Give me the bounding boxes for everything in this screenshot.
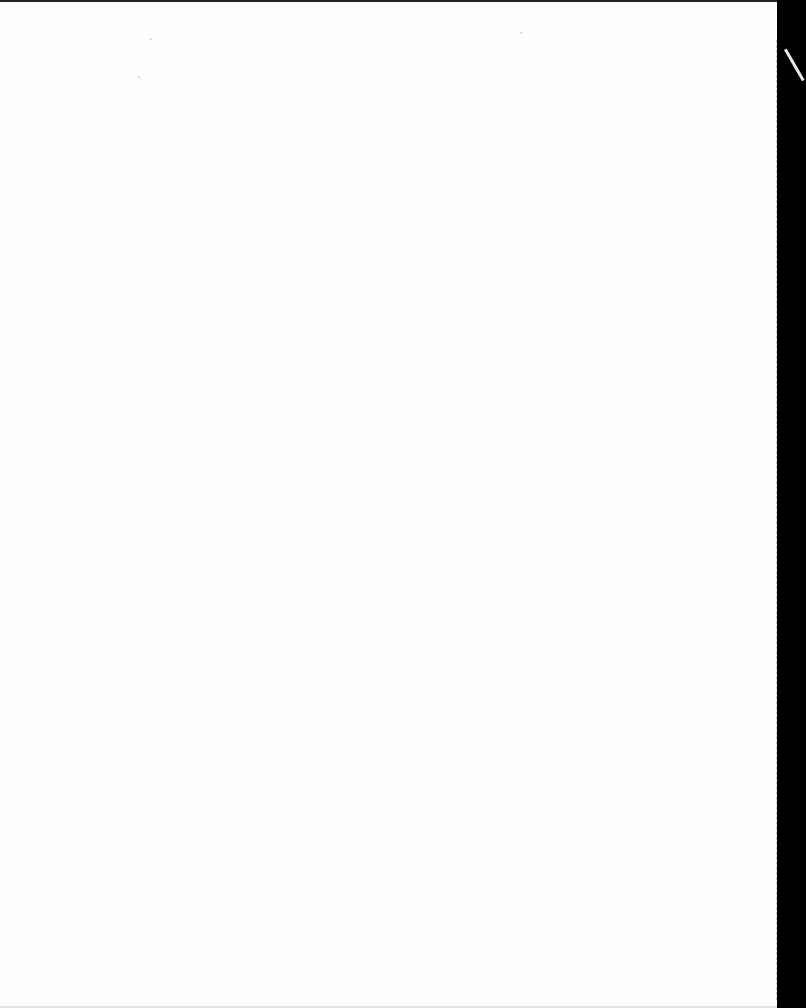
scan-speck [138,76,140,78]
scan-border-strip [777,0,806,1008]
scan-speck [520,32,522,34]
blank-page [0,2,777,1008]
scan-speck [150,38,152,40]
